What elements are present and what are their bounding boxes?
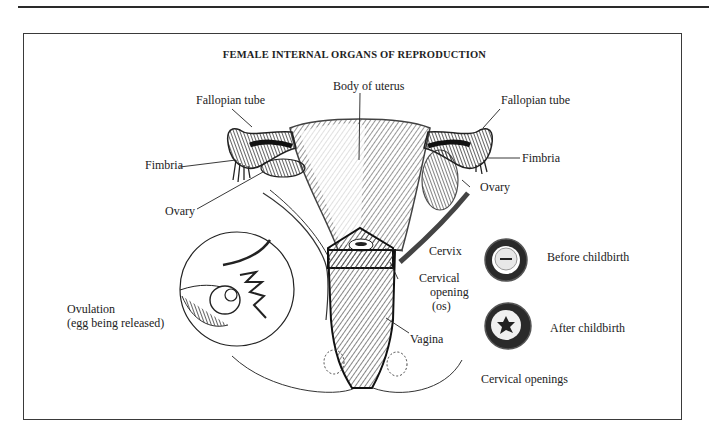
label-before-childbirth: Before childbirth — [547, 250, 629, 264]
label-fallopian-tube-right: Fallopian tube — [501, 93, 570, 107]
label-body-of-uterus: Body of uterus — [333, 79, 404, 93]
ovary-left — [261, 159, 305, 177]
label-cervical-opening-2: opening — [430, 285, 469, 299]
label-ovulation-1: Ovulation — [67, 302, 115, 316]
label-vagina: Vagina — [410, 332, 443, 346]
label-after-childbirth: After childbirth — [550, 321, 625, 335]
label-ovulation-2: (egg being released) — [67, 316, 164, 330]
cervical-opening-before-inset — [485, 239, 527, 281]
label-ovary-left: Ovary — [165, 204, 195, 218]
label-cervical-opening-1: Cervical — [419, 271, 460, 285]
reproductive-organs-illustration — [0, 0, 709, 441]
label-fallopian-tube-left: Fallopian tube — [196, 93, 265, 107]
label-cervical-opening-3: (os) — [432, 299, 451, 313]
vagina — [328, 250, 395, 388]
cervical-opening-after-inset — [485, 303, 531, 349]
label-fimbria-left: Fimbria — [145, 158, 183, 172]
label-cervix: Cervix — [429, 244, 462, 258]
ovulation-inset — [180, 232, 294, 346]
label-cervical-openings: Cervical openings — [481, 372, 568, 386]
ovary-right — [422, 150, 458, 210]
label-fimbria-right: Fimbria — [522, 151, 560, 165]
label-ovary-right: Ovary — [480, 180, 510, 194]
